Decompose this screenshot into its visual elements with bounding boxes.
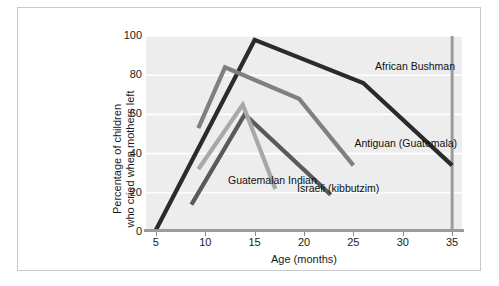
series-label-antiguan-guatemala: Antiguan (Guatemala) bbox=[354, 138, 457, 149]
y-tick-label-80: 80 bbox=[112, 69, 142, 80]
y-axis-tick-labels: 020406080100 bbox=[110, 36, 142, 232]
figure-frame: Percentage of children who cried when mo… bbox=[17, 7, 481, 271]
plot-area: African BushmanAntiguan (Guatemala)Israe… bbox=[146, 36, 462, 232]
x-tick-label-35: 35 bbox=[437, 236, 467, 248]
y-tick-label-20: 20 bbox=[112, 187, 142, 198]
y-tick-label-60: 60 bbox=[112, 108, 142, 119]
chart-figure: Percentage of children who cried when mo… bbox=[0, 0, 499, 286]
y-tick-label-100: 100 bbox=[112, 30, 142, 41]
y-tick-label-40: 40 bbox=[112, 148, 142, 159]
x-tick-label-5: 5 bbox=[141, 236, 171, 248]
x-tick-label-25: 25 bbox=[338, 236, 368, 248]
y-tick-label-0: 0 bbox=[112, 226, 142, 237]
x-axis-tick-labels: 5101520253035 bbox=[146, 236, 462, 252]
y-axis-title-container: Percentage of children who cried when mo… bbox=[96, 36, 110, 232]
series-label-african-bushman: African Bushman bbox=[375, 61, 455, 72]
x-axis-title: Age (months) bbox=[146, 253, 462, 265]
series-label-guatemalan-indian: Guatemalan Indian bbox=[228, 175, 317, 186]
x-tick-label-30: 30 bbox=[388, 236, 418, 248]
x-tick-label-15: 15 bbox=[240, 236, 270, 248]
x-tick-label-10: 10 bbox=[190, 236, 220, 248]
x-tick-label-20: 20 bbox=[289, 236, 319, 248]
